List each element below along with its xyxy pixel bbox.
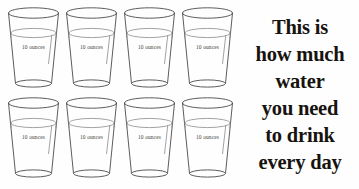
water-glass: 10 ounces (121, 4, 178, 92)
glass-label: 10 ounces (63, 44, 120, 50)
glass-label: 10 ounces (63, 134, 120, 140)
glass-label: 10 ounces (5, 44, 62, 50)
glass-label: 10 ounces (121, 134, 178, 140)
water-glass: 10 ounces (63, 94, 120, 182)
water-glass: 10 ounces (179, 4, 236, 92)
glass-label: 10 ounces (121, 44, 178, 50)
caption-line-1: This is (272, 14, 328, 41)
caption-line-4: you need (262, 95, 338, 122)
water-intake-poster: 10 ounces 10 ounces (0, 0, 359, 189)
glass-row-bottom: 10 ounces 10 ounces (0, 94, 242, 184)
caption-line-5: to drink (265, 122, 335, 149)
caption-line-3: water (275, 68, 324, 95)
water-glass: 10 ounces (121, 94, 178, 182)
glass-label: 10 ounces (179, 134, 236, 140)
water-glass: 10 ounces (5, 94, 62, 182)
glass-row-top: 10 ounces 10 ounces (0, 4, 242, 94)
glass-label: 10 ounces (5, 134, 62, 140)
water-glass: 10 ounces (63, 4, 120, 92)
caption-line-2: how much (256, 41, 345, 68)
water-glass: 10 ounces (5, 4, 62, 92)
caption-line-6: every day (258, 149, 341, 176)
water-glass: 10 ounces (179, 94, 236, 182)
glass-label: 10 ounces (179, 44, 236, 50)
caption-block: This is how much water you need to drink… (241, 0, 359, 189)
glass-grid: 10 ounces 10 ounces (0, 0, 242, 189)
